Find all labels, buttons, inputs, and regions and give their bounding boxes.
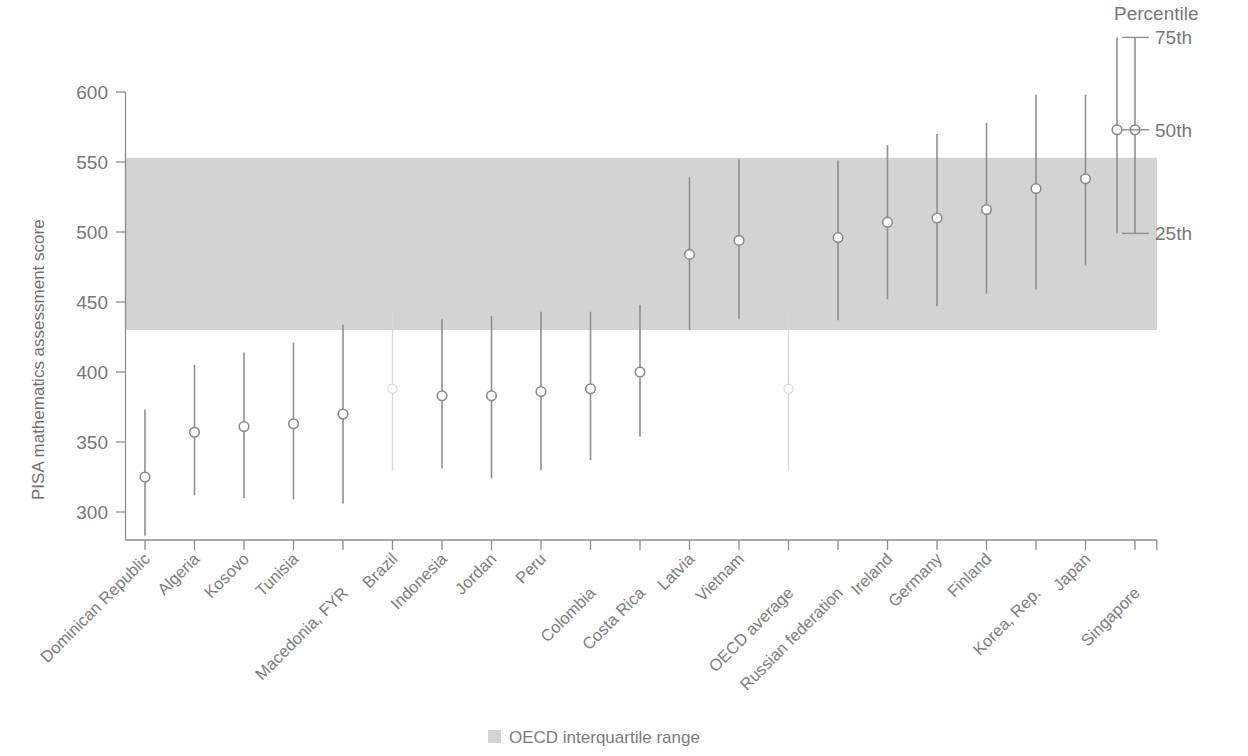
median-marker	[932, 213, 942, 223]
median-marker	[536, 387, 546, 397]
median-marker	[586, 384, 596, 394]
x-axis-label: Germany	[884, 549, 945, 610]
median-marker	[1031, 184, 1041, 194]
median-marker	[883, 217, 893, 227]
data-point-indonesia	[437, 319, 447, 469]
x-axis-label: Singapore	[1077, 583, 1143, 649]
x-axis-label: Algeria	[154, 549, 204, 599]
x-axis-label: Vietnam	[692, 549, 747, 604]
percentile-legend-label: 50th	[1155, 120, 1192, 141]
x-axis-label: Finland	[944, 549, 995, 600]
percentile-legend-median-marker	[1112, 125, 1122, 135]
x-axis-ticks	[145, 540, 1157, 550]
data-point-tunisia	[289, 343, 299, 500]
x-axis-label: Peru	[512, 549, 549, 586]
data-point-kosovo	[239, 352, 249, 498]
y-tick-label: 600	[76, 82, 108, 103]
x-axis-label: Jordan	[451, 549, 499, 597]
median-marker	[685, 250, 695, 260]
median-marker	[239, 422, 249, 432]
median-marker	[833, 233, 843, 243]
y-axis-ticks: 300350400450500550600	[76, 82, 125, 523]
iqr-legend-label: OECD interquartile range	[509, 728, 700, 747]
x-axis-label: Dominican Republic	[37, 549, 153, 665]
bottom-legend: OECD interquartile range	[488, 728, 700, 747]
median-marker	[1081, 174, 1091, 184]
pisa-math-score-chart: 300350400450500550600 Dominican Republic…	[0, 0, 1248, 756]
chart-canvas: 300350400450500550600 Dominican Republic…	[0, 0, 1248, 756]
y-tick-label: 500	[76, 222, 108, 243]
data-point-brazil	[388, 309, 397, 470]
y-tick-label: 550	[76, 152, 108, 173]
x-axis-label: OECD average	[705, 583, 797, 675]
x-axis-label: Latvia	[654, 549, 698, 593]
x-axis-label: Kosovo	[200, 549, 252, 601]
data-point-oecd-average	[784, 309, 793, 470]
oecd-interquartile-band	[125, 158, 1157, 330]
median-marker	[388, 384, 397, 393]
data-point-dominican-republic	[140, 410, 150, 536]
percentile-legend-label: 25th	[1155, 223, 1192, 244]
y-tick-label: 450	[76, 292, 108, 313]
y-axis-title: PISA mathematics assessment score	[29, 219, 48, 500]
percentile-legend-label: 75th	[1155, 27, 1192, 48]
x-axis-label: Japan	[1049, 549, 1094, 594]
median-marker	[734, 236, 744, 246]
iqr-legend-swatch	[488, 730, 501, 743]
median-marker	[190, 427, 200, 437]
y-tick-label: 350	[76, 432, 108, 453]
data-point-jordan	[487, 316, 497, 478]
x-axis-label: Ireland	[847, 549, 895, 597]
y-tick-label: 400	[76, 362, 108, 383]
x-axis-label: Korea, Rep.	[969, 583, 1044, 658]
x-axis-label: Macedonia, FYR	[251, 583, 351, 683]
median-marker	[635, 367, 645, 377]
median-marker	[338, 409, 348, 419]
data-point-algeria	[190, 365, 200, 495]
data-point-colombia	[586, 312, 596, 460]
percentile-legend-title: Percentile	[1114, 3, 1199, 24]
data-point-peru	[536, 312, 546, 470]
median-marker	[140, 472, 150, 482]
median-marker	[487, 391, 497, 401]
x-axis-label: Brazil	[359, 549, 401, 591]
data-point-macedonia-fyr	[338, 324, 348, 503]
median-marker	[289, 419, 299, 429]
x-axis-category-labels: Dominican RepublicAlgeriaKosovoTunisiaMa…	[37, 549, 1143, 694]
y-tick-label: 300	[76, 502, 108, 523]
median-marker	[437, 391, 447, 401]
x-axis-label: Tunisia	[252, 549, 302, 599]
median-marker	[784, 384, 793, 393]
median-marker	[982, 205, 992, 215]
